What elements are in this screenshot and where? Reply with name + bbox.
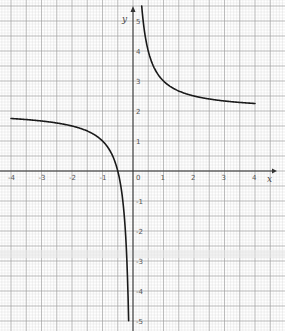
y-tick-label: 3	[136, 78, 140, 86]
y-tick-label: 4	[136, 48, 141, 56]
y-axis-label: y	[121, 14, 128, 24]
x-tick-label: 3	[222, 174, 226, 182]
x-tick-label: -3	[39, 174, 46, 182]
x-tick-label: -1	[100, 174, 107, 182]
minor-grid	[0, 0, 285, 331]
y-tick-label: -2	[136, 228, 143, 236]
scan-artifact-band	[0, 250, 285, 258]
x-tick-label: 1	[161, 174, 165, 182]
graph-plot: -4-3-2-101234-5-4-3-2-112345 y x	[0, 0, 285, 331]
x-tick-label: 0	[136, 174, 140, 182]
y-tick-label: 1	[136, 138, 140, 146]
x-tick-label: 2	[191, 174, 195, 182]
major-grid	[0, 0, 285, 331]
y-tick-label: 5	[136, 18, 140, 26]
x-axis-label: x	[267, 174, 272, 184]
y-tick-label: -5	[136, 318, 143, 326]
y-tick-label: -4	[136, 288, 144, 296]
x-tick-label: -2	[69, 174, 76, 182]
left-branch-curve	[11, 119, 129, 321]
x-tick-label: -4	[8, 174, 16, 182]
y-tick-label: 2	[136, 108, 140, 116]
y-tick-label: -3	[136, 258, 143, 266]
y-tick-label: -1	[136, 198, 143, 206]
x-tick-label: 4	[252, 174, 257, 182]
